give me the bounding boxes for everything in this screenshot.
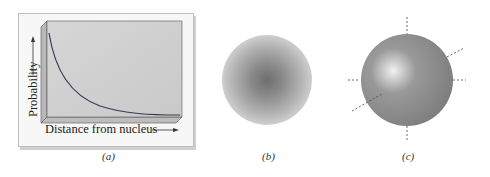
electron-cloud (222, 35, 312, 125)
caption-b: (b) (262, 150, 275, 162)
sphere-diagram (340, 0, 490, 177)
orbital-sphere (361, 34, 453, 126)
caption-c: (c) (402, 150, 414, 162)
y-axis-label: Probability (26, 61, 41, 117)
caption-a: (a) (102, 150, 115, 162)
x-axis-label: Distance from nucleus (45, 122, 157, 137)
